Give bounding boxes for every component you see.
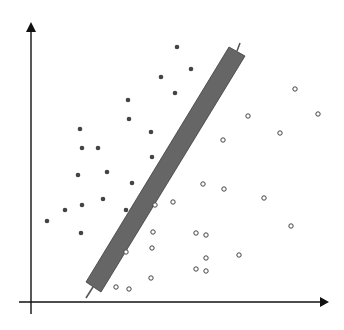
filled-data-point — [63, 208, 68, 213]
filled-data-point — [173, 91, 178, 96]
open-data-point — [237, 253, 241, 257]
filled-data-point — [96, 146, 101, 151]
open-data-point — [127, 287, 131, 291]
open-data-point — [153, 203, 157, 207]
filled-data-point — [127, 117, 132, 122]
open-data-point — [204, 269, 208, 273]
open-data-point — [289, 224, 293, 228]
open-data-point — [246, 114, 250, 118]
open-data-point — [194, 267, 198, 271]
filled-data-point — [124, 208, 129, 213]
filled-data-point — [175, 45, 180, 50]
filled-data-point — [101, 197, 106, 202]
open-data-point — [124, 250, 128, 254]
filled-data-point — [76, 173, 81, 178]
filled-data-point — [78, 127, 83, 132]
filled-data-point — [79, 231, 84, 236]
open-data-point — [278, 131, 282, 135]
open-data-point — [293, 87, 297, 91]
filled-data-point — [130, 181, 135, 186]
filled-data-point — [159, 75, 164, 80]
open-data-point — [194, 231, 198, 235]
filled-data-point — [45, 219, 50, 224]
open-data-point — [204, 233, 208, 237]
filled-data-point — [80, 203, 85, 208]
open-data-point — [262, 196, 266, 200]
open-data-point — [204, 256, 208, 260]
filled-data-point — [105, 170, 110, 175]
svm-diagram — [0, 0, 344, 330]
open-data-point — [222, 187, 226, 191]
open-data-point — [221, 138, 225, 142]
open-data-point — [114, 285, 118, 289]
open-data-point — [149, 276, 153, 280]
open-data-point — [150, 246, 154, 250]
open-data-point — [316, 112, 320, 116]
open-data-point — [151, 230, 155, 234]
filled-data-point — [80, 146, 85, 151]
filled-data-point — [126, 98, 131, 103]
open-data-point — [171, 200, 175, 204]
filled-data-point — [189, 67, 194, 72]
open-data-point — [201, 182, 205, 186]
filled-data-point — [149, 130, 154, 135]
filled-data-point — [150, 155, 155, 160]
